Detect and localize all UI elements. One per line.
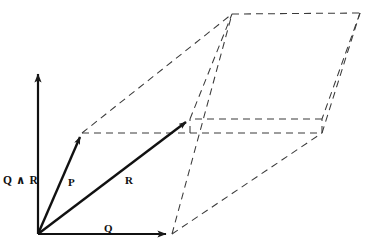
vector-diagram-figure: Q ∧ R P R Q [0,0,368,249]
vector-diagram-canvas: Q ∧ R P R Q [0,0,368,249]
label-vector-r: R [125,174,134,186]
label-q-wedge-r: Q ∧ R [3,174,38,186]
label-vector-p: P [68,176,75,188]
label-vector-q: Q [104,222,113,234]
